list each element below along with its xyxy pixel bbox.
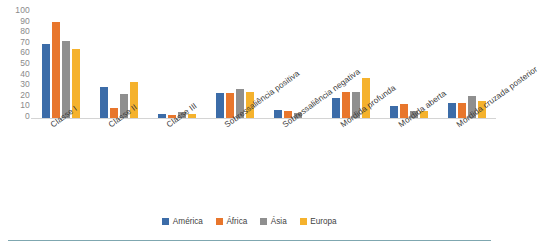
legend-swatch-icon [162,218,169,225]
bar [216,93,225,118]
bar [100,87,109,118]
legend-item[interactable]: Ásia [260,217,286,226]
y-tick-20: 20 [4,91,30,99]
y-tick-90: 90 [4,17,30,25]
y-tick-100: 100 [4,6,30,14]
bottom-divider [8,240,491,241]
bar [274,110,283,118]
bar-group [32,12,90,118]
y-tick-10: 10 [4,101,30,109]
legend-swatch-icon [260,218,267,225]
bar [52,22,61,118]
bar-group [90,12,148,118]
legend-item[interactable]: África [216,217,247,226]
y-tick-80: 80 [4,27,30,35]
legend-label: Europa [310,217,336,226]
bar-group [148,12,206,118]
legend-label: África [226,217,247,226]
legend-item[interactable]: América [162,217,203,226]
legend-item[interactable]: Europa [300,217,337,226]
bar [448,103,457,118]
bar [390,106,399,118]
y-tick-60: 60 [4,48,30,56]
y-tick-70: 70 [4,38,30,46]
y-axis: 1009080706050403020100 [4,6,30,121]
chart-legend: AméricaÁfricaÁsiaEuropa [0,214,499,228]
x-axis-labels: Classe IClasse IIClasse IIISobressaliênc… [0,118,499,208]
legend-swatch-icon [300,218,307,225]
y-tick-30: 30 [4,80,30,88]
legend-label: América [173,217,203,226]
legend-swatch-icon [216,218,223,225]
y-tick-50: 50 [4,59,30,67]
legend-label: Ásia [271,217,287,226]
y-tick-40: 40 [4,70,30,78]
bar [42,44,51,118]
bar [332,98,341,118]
